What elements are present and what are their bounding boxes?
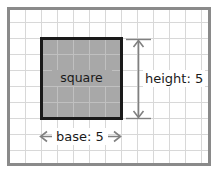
square-label-group: square — [52, 70, 112, 86]
base-label: base: 5 — [56, 129, 104, 144]
geometry-diagram-figure: square height: 5 ba — [0, 0, 218, 173]
height-label: height: 5 — [145, 71, 203, 86]
diagram-canvas: square height: 5 ba — [0, 0, 218, 173]
square-label: square — [60, 70, 103, 85]
base-label-group: base: 5 — [52, 128, 108, 145]
height-label-group: height: 5 — [143, 70, 205, 87]
